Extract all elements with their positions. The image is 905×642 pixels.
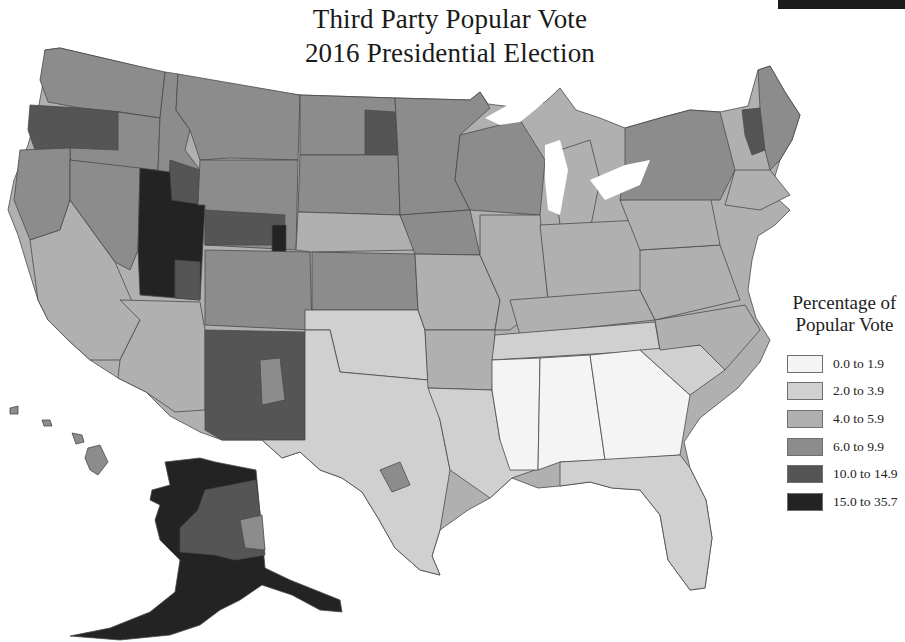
region-hawaii-big-island xyxy=(85,445,108,475)
region-oregon-west xyxy=(28,105,120,150)
region-colorado xyxy=(205,250,312,330)
region-florida xyxy=(560,455,712,590)
legend-label: 15.0 to 35.7 xyxy=(833,494,898,510)
legend-title-line-1: Percentage of xyxy=(784,292,905,314)
legend-label: 10.0 to 14.9 xyxy=(833,466,898,482)
legend-title: Percentage of Popular Vote xyxy=(784,292,905,336)
legend-label: 4.0 to 5.9 xyxy=(833,411,884,427)
region-north-dakota-east xyxy=(365,110,398,155)
legend-label: 0.0 to 1.9 xyxy=(833,356,884,372)
legend-swatch xyxy=(787,410,823,428)
legend-item: 2.0 to 3.9 xyxy=(780,378,905,406)
legend-swatch xyxy=(787,465,823,483)
region-hawaii-oahu xyxy=(42,420,52,426)
region-kansas xyxy=(312,252,418,310)
region-wyoming-dark xyxy=(272,225,286,252)
legend-item: 0.0 to 1.9 xyxy=(780,350,905,378)
region-hawaii-kauai xyxy=(10,406,18,414)
choropleth-map xyxy=(0,0,905,642)
region-new-mexico xyxy=(205,330,305,440)
legend-title-line-2: Popular Vote xyxy=(784,314,905,336)
legend-item: 6.0 to 9.9 xyxy=(780,433,905,461)
legend-swatch xyxy=(787,438,823,456)
region-hawaii-maui xyxy=(72,433,84,444)
legend-label: 6.0 to 9.9 xyxy=(833,439,884,455)
legend-swatch xyxy=(787,382,823,400)
legend-swatch xyxy=(787,355,823,373)
legend-item: 15.0 to 35.7 xyxy=(780,488,905,516)
legend-item: 10.0 to 14.9 xyxy=(780,460,905,488)
legend-item: 4.0 to 5.9 xyxy=(780,405,905,433)
region-indiana-ohio xyxy=(540,220,645,300)
region-nebraska xyxy=(296,212,415,252)
legend-label: 2.0 to 3.9 xyxy=(833,383,884,399)
legend-items: 0.0 to 1.9 2.0 to 3.9 4.0 to 5.9 6.0 to … xyxy=(780,350,905,516)
region-south-dakota xyxy=(298,155,400,215)
region-new-york xyxy=(620,110,735,200)
region-arkansas xyxy=(425,330,495,390)
legend: Percentage of Popular Vote 0.0 to 1.9 2.… xyxy=(780,292,905,516)
legend-swatch xyxy=(787,493,823,511)
region-utah-south xyxy=(175,260,200,300)
